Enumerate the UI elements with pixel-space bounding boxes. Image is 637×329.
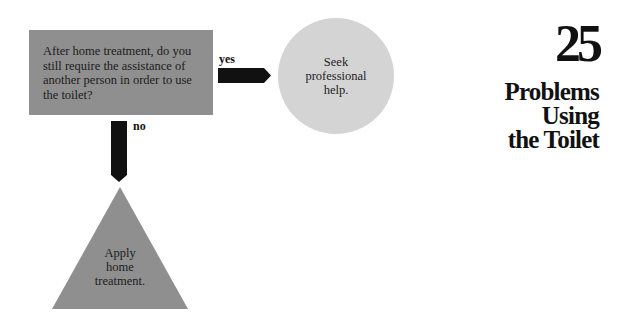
no-label: no bbox=[133, 119, 146, 134]
chapter-title: Problems Using the Toilet bbox=[504, 80, 599, 152]
chapter-number: 25 bbox=[555, 18, 599, 70]
circle-text-line: Seek bbox=[305, 55, 366, 69]
right-arrow-icon bbox=[218, 68, 271, 83]
circle-text-line: professional bbox=[305, 69, 366, 83]
seek-help-circle: Seek professional help. bbox=[278, 18, 394, 134]
triangle-text-line: home bbox=[52, 260, 188, 274]
chapter-title-line: Using bbox=[504, 104, 599, 128]
question-text: After home treatment, do you still requi… bbox=[43, 44, 203, 102]
question-box: After home treatment, do you still requi… bbox=[29, 30, 213, 115]
yes-label: yes bbox=[219, 52, 235, 67]
down-arrow-icon bbox=[111, 121, 127, 182]
chapter-title-line: the Toilet bbox=[504, 128, 599, 152]
triangle-text: Apply home treatment. bbox=[52, 246, 188, 288]
triangle-text-line: Apply bbox=[52, 246, 188, 260]
triangle-text-line: treatment. bbox=[52, 274, 188, 288]
circle-text-line: help. bbox=[305, 83, 366, 97]
chapter-title-line: Problems bbox=[504, 80, 599, 104]
